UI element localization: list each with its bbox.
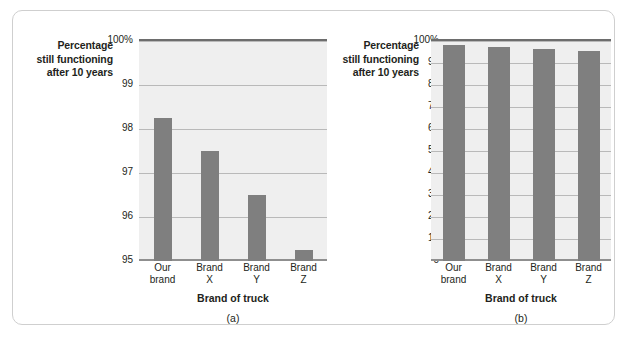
y-tick-label: 99 bbox=[122, 78, 133, 89]
x-category-line: Brand bbox=[196, 262, 223, 273]
plot-area-a bbox=[139, 39, 327, 261]
y-tick-label: 96 bbox=[122, 210, 133, 221]
bar-brand-z bbox=[578, 51, 600, 261]
bar-brand-x bbox=[201, 151, 219, 261]
gridline bbox=[431, 41, 611, 42]
x-category-label: BrandX bbox=[186, 262, 233, 286]
bar-brand-y bbox=[248, 195, 266, 261]
y-tick-label: 95 bbox=[122, 254, 133, 265]
x-category-line: Brand bbox=[530, 262, 557, 273]
bar-our-brand bbox=[154, 118, 172, 261]
bar-brand-z bbox=[295, 250, 313, 261]
x-category-line: Brand bbox=[485, 262, 512, 273]
plot-area-b bbox=[431, 39, 611, 261]
x-category-line: Our bbox=[154, 262, 171, 273]
chart-panel-a: Percentage still functioning after 10 ye… bbox=[13, 11, 323, 326]
x-category-line: Brand bbox=[575, 262, 602, 273]
x-category-label: BrandY bbox=[233, 262, 280, 286]
y-tick-label: 97 bbox=[122, 166, 133, 177]
bar-brand-x bbox=[488, 47, 510, 262]
y-tick-label: 98 bbox=[122, 122, 133, 133]
x-category-line: X bbox=[476, 274, 521, 286]
gridline bbox=[139, 41, 327, 42]
x-axis-title-a: Brand of truck bbox=[139, 292, 327, 304]
x-category-line: Y bbox=[521, 274, 566, 286]
x-axis-categories-b: OurbrandBrandXBrandYBrandZ bbox=[431, 262, 611, 286]
x-category-line: Brand bbox=[243, 262, 270, 273]
panel-caption-a: (a) bbox=[139, 312, 327, 324]
x-category-label: BrandZ bbox=[566, 262, 611, 286]
panel-caption-b: (b) bbox=[431, 312, 611, 324]
y-axis-ticks-a: 9596979899100% bbox=[99, 11, 133, 326]
chart-panel-b: Percentage still functioning after 10 ye… bbox=[311, 11, 616, 326]
x-category-label: BrandX bbox=[476, 262, 521, 286]
gridline bbox=[139, 85, 327, 86]
x-category-line: Our bbox=[445, 262, 462, 273]
figure-card: Percentage still functioning after 10 ye… bbox=[12, 10, 615, 325]
x-category-label: BrandY bbox=[521, 262, 566, 286]
bar-brand-y bbox=[533, 49, 555, 261]
bar-our-brand bbox=[443, 45, 465, 261]
x-category-line: brand bbox=[139, 274, 186, 286]
x-axis-categories-a: OurbrandBrandXBrandYBrandZ bbox=[139, 262, 327, 286]
x-category-label: Ourbrand bbox=[431, 262, 476, 286]
x-axis-title-b: Brand of truck bbox=[431, 292, 611, 304]
x-category-line: Y bbox=[233, 274, 280, 286]
y-tick-label: 100% bbox=[107, 34, 133, 45]
x-category-line: X bbox=[186, 274, 233, 286]
x-category-label: Ourbrand bbox=[139, 262, 186, 286]
x-category-line: brand bbox=[431, 274, 476, 286]
x-category-line: Z bbox=[566, 274, 611, 286]
